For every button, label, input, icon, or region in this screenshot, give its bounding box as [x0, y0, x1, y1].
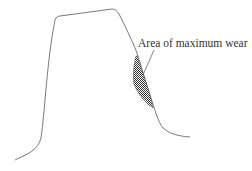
tooth-outline	[15, 9, 190, 160]
wear-area-label: Area of maximum wear	[138, 37, 248, 49]
leader-line	[143, 50, 154, 75]
tooth-diagram	[0, 0, 252, 171]
wear-area	[133, 56, 153, 108]
diagram-canvas: Area of maximum wear	[0, 0, 252, 171]
